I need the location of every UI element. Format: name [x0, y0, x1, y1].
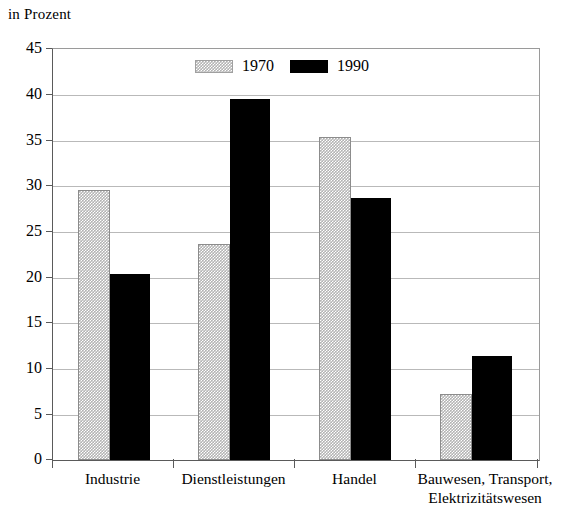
bar-handel-1990	[351, 198, 391, 460]
y-axis-label-40: 40	[2, 86, 42, 102]
y-axis-label-30: 30	[2, 177, 42, 193]
x-axis-tick-3	[415, 459, 416, 468]
x-axis-category-industrie: Industrie	[52, 470, 173, 489]
gridline-35	[53, 141, 539, 142]
x-axis-category-handel: Handel	[294, 470, 415, 489]
bar-dienstleistungen-1970	[198, 244, 230, 460]
y-axis-label-0: 0	[2, 451, 42, 467]
x-axis-tick-end	[537, 459, 538, 468]
x-axis-tick-1	[173, 459, 174, 468]
gridline-40	[53, 95, 539, 96]
bar-bauwesen-1990	[472, 356, 512, 460]
bar-chart: in Prozent 1970 1990 45 40 35 30 25 20 1…	[0, 0, 563, 512]
y-axis-label-10: 10	[2, 360, 42, 376]
bar-dienstleistungen-1990	[230, 99, 270, 460]
y-axis-label-20: 20	[2, 269, 42, 285]
y-axis-label-45: 45	[2, 40, 42, 56]
bar-bauwesen-1970	[440, 394, 472, 460]
gridline-25	[53, 232, 539, 233]
bar-handel-1970	[319, 137, 351, 460]
x-axis-tick-start	[52, 459, 53, 468]
x-axis-category-bauwesen: Bauwesen, Transport, Elektrizitätswesen	[407, 470, 563, 508]
plot-area	[52, 48, 540, 461]
y-axis-label-5: 5	[2, 406, 42, 422]
y-axis-label-35: 35	[2, 132, 42, 148]
bar-industrie-1990	[110, 274, 150, 460]
chart-axis-title: in Prozent	[8, 6, 71, 23]
y-axis-label-15: 15	[2, 314, 42, 330]
x-axis-tick-2	[294, 459, 295, 468]
bar-industrie-1970	[78, 190, 110, 460]
gridline-30	[53, 186, 539, 187]
x-axis-category-dienstleistungen: Dienstleistungen	[173, 470, 294, 489]
y-axis-label-25: 25	[2, 223, 42, 239]
